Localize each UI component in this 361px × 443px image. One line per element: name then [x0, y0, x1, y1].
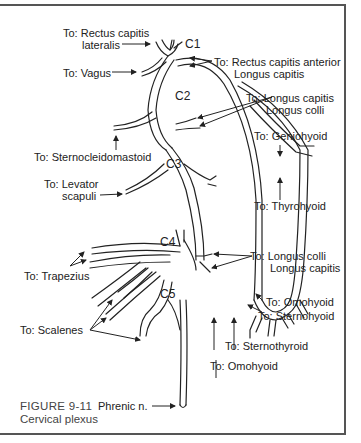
label-longus-lower-line1: To: Longus colli	[250, 250, 326, 262]
label-geniohyoid: To: Geniohyoid	[254, 130, 327, 142]
root-label-c2: C2	[175, 90, 190, 102]
label-omohyoid-lower: To: Omohyoid	[210, 360, 278, 372]
label-omohyoid-upper: To: Omohyoid	[266, 296, 334, 308]
root-label-c4: C4	[160, 236, 175, 248]
label-longus-upper-line1: To: Longus capitis	[246, 92, 334, 104]
label-sternothyroid: To: Sternothyroid	[225, 340, 308, 352]
label-longus-lower-line2: Longus capitis	[270, 262, 340, 274]
figure-title: Cervical plexus	[20, 413, 98, 425]
root-label-c5: C5	[160, 288, 175, 300]
label-levator-line2: scapuli	[62, 190, 96, 202]
root-label-c3: C3	[166, 158, 181, 170]
label-rectus-anterior-line2: Longus capitis	[234, 68, 304, 80]
label-sternocleidomastoid: To: Sternocleidomastoid	[34, 151, 151, 163]
label-trapezius: To: Trapezius	[24, 270, 89, 282]
figure-number: FIGURE 9-11	[20, 400, 92, 412]
label-sternohyoid: To: Sternohyoid	[258, 310, 334, 322]
label-levator-line1: To: Levator	[44, 178, 98, 190]
label-phrenic: Phrenic n.	[98, 400, 148, 412]
label-thyrohyoid: To: Thyrohyoid	[254, 200, 326, 212]
label-rectus-anterior-line1: To: Rectus capitis anterior	[214, 56, 341, 68]
label-scalenes: To: Scalenes	[20, 324, 83, 336]
label-longus-upper-line2: Longus colli	[266, 104, 324, 116]
label-rectus-lateralis-line2: lateralis	[82, 39, 120, 51]
root-label-c1: C1	[185, 38, 200, 50]
label-rectus-lateralis-line1: To: Rectus capitis	[63, 27, 149, 39]
label-vagus: To: Vagus	[63, 67, 111, 79]
